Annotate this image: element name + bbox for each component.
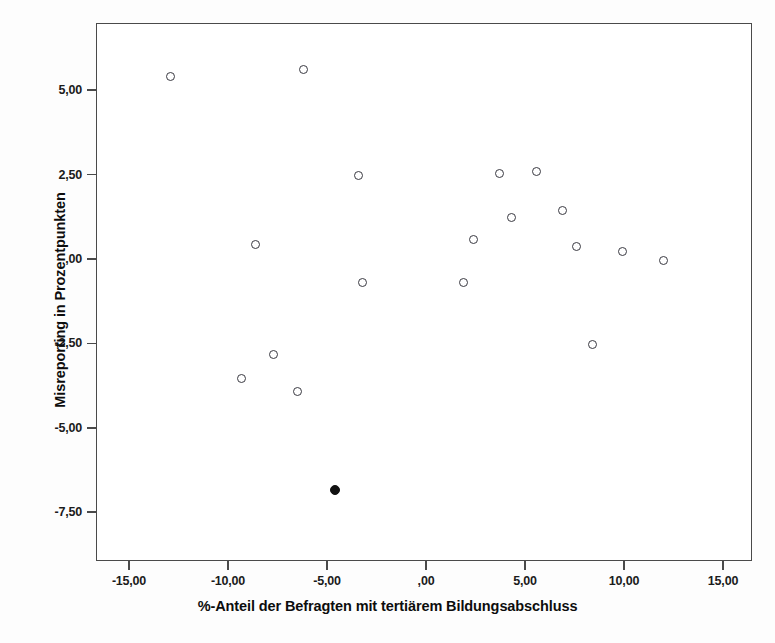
- x-axis-tick: [326, 561, 328, 570]
- data-point: [572, 242, 581, 251]
- x-axis-tick-label: -10,00: [211, 574, 245, 588]
- y-axis-tick-label: -2,50: [10, 336, 82, 350]
- y-axis-tick-label: -5,00: [10, 421, 82, 435]
- x-axis-tick-label: ,00: [418, 574, 435, 588]
- y-axis-tick-label: ,00: [10, 252, 82, 266]
- x-axis-tick-label: 15,00: [708, 574, 738, 588]
- x-axis-tick: [227, 561, 229, 570]
- x-axis-tick: [623, 561, 625, 570]
- data-point: [588, 340, 597, 349]
- x-axis-tick-label: -15,00: [112, 574, 146, 588]
- scatter-plot-figure: -15,00-10,00-5,00,005,0010,0015,005,002,…: [0, 0, 775, 643]
- y-axis-tick-label: 5,00: [10, 83, 82, 97]
- y-axis-tick-label: 2,50: [10, 168, 82, 182]
- x-axis-tick-label: -5,00: [313, 574, 341, 588]
- data-point: [618, 247, 627, 256]
- y-axis-tick-label: -7,50: [10, 505, 82, 519]
- y-axis-tick: [87, 174, 96, 176]
- data-point: [269, 350, 278, 359]
- data-point: [469, 235, 478, 244]
- x-axis-tick-label: 10,00: [609, 574, 639, 588]
- x-axis-tick: [722, 561, 724, 570]
- x-axis-tick: [524, 561, 526, 570]
- y-axis-tick: [87, 427, 96, 429]
- data-point: [558, 206, 567, 215]
- x-axis-tick: [425, 561, 427, 570]
- data-point: [293, 387, 302, 396]
- x-axis-title: %-Anteil der Befragten mit tertiärem Bil…: [0, 598, 775, 614]
- x-axis-tick-label: 5,00: [513, 574, 537, 588]
- x-axis-tick: [128, 561, 130, 570]
- y-axis-tick: [87, 511, 96, 513]
- y-axis-title: Misreporting in Prozentpunkten: [52, 40, 68, 560]
- plot-area-frame: [96, 23, 752, 561]
- y-axis-tick: [87, 343, 96, 345]
- data-point: [507, 213, 516, 222]
- y-axis-tick: [87, 258, 96, 260]
- data-point: [354, 171, 363, 180]
- y-axis-tick: [87, 89, 96, 91]
